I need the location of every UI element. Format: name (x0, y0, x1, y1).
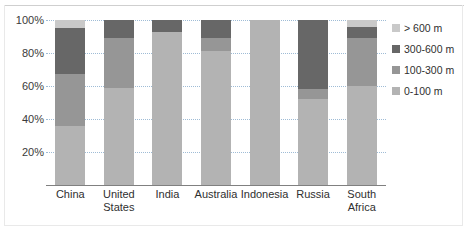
bar-group[interactable] (55, 20, 85, 185)
y-axis-tick-label: 100% (2, 14, 44, 26)
stacked-bar[interactable] (201, 20, 231, 185)
bar-segment[interactable] (104, 20, 134, 38)
bar-segment[interactable] (201, 51, 231, 185)
bar-group[interactable] (298, 20, 328, 185)
x-axis-tick-label: UnitedStates (95, 188, 144, 214)
x-axis-tick-label: SouthAfrica (337, 188, 386, 214)
bar-segment[interactable] (55, 126, 85, 185)
bar-segment[interactable] (55, 20, 85, 28)
bars-layer (46, 20, 386, 185)
legend-label: 0-100 m (404, 85, 443, 97)
legend-swatch-icon (392, 24, 400, 32)
x-axis-tick-label: China (46, 188, 95, 201)
bar-segment[interactable] (201, 20, 231, 38)
legend-label: 100-300 m (404, 64, 454, 76)
bar-segment[interactable] (347, 20, 377, 27)
bar-segment[interactable] (55, 74, 85, 125)
legend-label: > 600 m (404, 22, 442, 34)
bar-segment[interactable] (250, 20, 280, 185)
bar-segment[interactable] (55, 28, 85, 74)
bar-segment[interactable] (201, 38, 231, 51)
chart-legend: > 600 m300-600 m100-300 m0-100 m (392, 17, 466, 101)
y-axis-labels: 20%40%60%80%100% (0, 0, 44, 231)
stacked-bar[interactable] (55, 20, 85, 185)
legend-item[interactable]: 0-100 m (392, 80, 466, 101)
legend-item[interactable]: 300-600 m (392, 38, 466, 59)
bar-group[interactable] (152, 20, 182, 185)
y-axis-tick-label: 80% (2, 47, 44, 59)
x-axis-tick-label: Russia (289, 188, 338, 201)
stacked-bar[interactable] (298, 20, 328, 185)
stacked-bar[interactable] (250, 20, 280, 185)
bar-segment[interactable] (298, 99, 328, 185)
legend-label: 300-600 m (404, 43, 454, 55)
x-axis-tick-label: India (143, 188, 192, 201)
bar-segment[interactable] (347, 38, 377, 86)
y-axis-tick-label: 40% (2, 113, 44, 125)
x-axis-tick-label: Australia (192, 188, 241, 201)
bar-segment[interactable] (104, 38, 134, 88)
legend-swatch-icon (392, 87, 400, 95)
x-axis-labels: ChinaUnitedStatesIndiaAustraliaIndonesia… (46, 188, 386, 228)
chart-container: 20%40%60%80%100% ChinaUnitedStatesIndiaA… (0, 0, 468, 231)
bar-segment[interactable] (298, 89, 328, 99)
legend-swatch-icon (392, 45, 400, 53)
bar-group[interactable] (201, 20, 231, 185)
bar-segment[interactable] (152, 32, 182, 185)
stacked-bar[interactable] (104, 20, 134, 185)
y-axis-tick-label: 20% (2, 146, 44, 158)
bar-segment[interactable] (152, 20, 182, 32)
y-axis-tick-label: 60% (2, 80, 44, 92)
stacked-bar[interactable] (152, 20, 182, 185)
bar-segment[interactable] (347, 86, 377, 185)
x-axis-line (46, 185, 386, 186)
bar-group[interactable] (250, 20, 280, 185)
legend-swatch-icon (392, 66, 400, 74)
stacked-bar[interactable] (347, 20, 377, 185)
x-axis-tick-label: Indonesia (240, 188, 289, 201)
legend-item[interactable]: 100-300 m (392, 59, 466, 80)
bar-segment[interactable] (104, 88, 134, 185)
bar-group[interactable] (104, 20, 134, 185)
bar-segment[interactable] (298, 20, 328, 89)
bar-group[interactable] (347, 20, 377, 185)
legend-item[interactable]: > 600 m (392, 17, 466, 38)
bar-segment[interactable] (347, 27, 377, 39)
